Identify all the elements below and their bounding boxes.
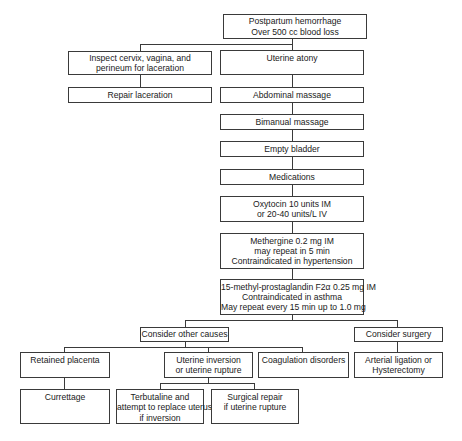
connector (160, 383, 255, 384)
node-retained-placenta: Retained placenta (20, 352, 110, 378)
node-text: or uterine rupture (165, 365, 252, 375)
node-inspect-laceration: Inspect cervix, vagina, and perineum for… (68, 51, 212, 75)
node-text: Abdominal massage (221, 90, 363, 100)
connector (64, 347, 303, 348)
node-text: Methergine 0.2 mg IM (221, 236, 363, 246)
connector (140, 74, 141, 87)
node-text: Empty bladder (221, 144, 363, 154)
connector (292, 184, 293, 196)
node-consider-other-causes: Consider other causes (140, 327, 229, 342)
connector (140, 44, 141, 51)
node-text: Bimanual massage (221, 117, 363, 127)
node-text: Uterine inversion (165, 355, 252, 365)
node-text: Terbutaline and (117, 392, 203, 402)
node-text: Contraindicated in hypertension (221, 256, 363, 266)
node-text: Oxytocin 10 units IM (221, 199, 363, 209)
node-text: Postpartum hemorrhage (224, 16, 366, 26)
node-text: 15-methyl-prostaglandin F2α 0.25 mg IM (221, 282, 363, 292)
node-text: may repeat in 5 min (221, 246, 363, 256)
node-text: May repeat every 15 min up to 1.0 mg (221, 302, 363, 312)
node-text: Over 500 cc blood loss (224, 27, 366, 37)
node-bimanual-massage: Bimanual massage (220, 114, 364, 130)
connector (292, 221, 293, 233)
node-empty-bladder: Empty bladder (220, 141, 364, 157)
connector (292, 74, 293, 87)
node-oxytocin: Oxytocin 10 units IM or 20-40 units/L IV (220, 196, 364, 222)
node-abdominal-massage: Abdominal massage (220, 87, 364, 103)
node-text: attempt to replace uterus (117, 402, 203, 412)
connector (64, 377, 65, 389)
node-text: Hysterectomy (355, 365, 442, 375)
node-prostaglandin: 15-methyl-prostaglandin F2α 0.25 mg IM C… (220, 279, 364, 315)
node-medications: Medications (220, 169, 364, 185)
node-text: perineum for laceration (69, 63, 211, 73)
connector (397, 320, 398, 327)
node-text: if uterine rupture (212, 402, 298, 412)
connector (292, 268, 293, 279)
node-coagulation-disorders: Coagulation disorders (258, 352, 349, 378)
connector (185, 320, 186, 327)
connector (292, 156, 293, 169)
connector (292, 102, 293, 114)
node-arterial-ligation: Arterial ligation or Hysterectomy (354, 352, 443, 378)
node-text: Uterine atony (221, 53, 363, 63)
node-uterine-inversion: Uterine inversion or uterine rupture (164, 352, 253, 378)
node-consider-surgery: Consider surgery (354, 327, 443, 342)
node-text: if inversion (117, 413, 203, 423)
node-terbutaline: Terbutaline and attempt to replace uteru… (116, 389, 204, 424)
node-surgical-repair: Surgical repair if uterine rupture (211, 389, 299, 424)
connector (292, 129, 293, 141)
node-text: Consider surgery (355, 329, 442, 339)
node-postpartum-hemorrhage: Postpartum hemorrhage Over 500 cc blood … (223, 14, 367, 39)
node-text: Contraindicated in asthma (221, 292, 363, 302)
node-text: Arterial ligation or (355, 355, 442, 365)
node-curettage: Currettage (20, 389, 110, 424)
node-uterine-atony: Uterine atony (220, 50, 364, 75)
node-methergine: Methergine 0.2 mg IM may repeat in 5 min… (220, 233, 364, 269)
connector (397, 341, 398, 352)
connector (140, 44, 293, 45)
node-text: Currettage (21, 392, 109, 402)
node-text: Consider other causes (141, 329, 228, 339)
node-text: Medications (221, 172, 363, 182)
node-text: or 20-40 units/L IV (221, 209, 363, 219)
node-text: Coagulation disorders (259, 355, 348, 365)
connector (185, 320, 398, 321)
node-text: Surgical repair (212, 392, 298, 402)
node-text: Retained placenta (21, 355, 109, 365)
node-repair-laceration: Repair laceration (68, 87, 212, 103)
node-text: Repair laceration (69, 90, 211, 100)
node-text: Inspect cervix, vagina, and (69, 53, 211, 63)
